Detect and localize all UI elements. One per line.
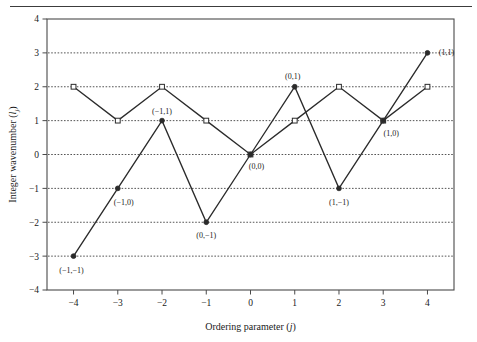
y-tick-label: 1 bbox=[34, 116, 39, 126]
data-point-filled-circle bbox=[337, 186, 342, 191]
x-tick-label: −4 bbox=[68, 298, 78, 308]
y-tick-label: −2 bbox=[29, 218, 39, 228]
y-tick-label: −3 bbox=[29, 252, 39, 262]
data-point-open-square bbox=[292, 118, 297, 123]
y-tick-label: −4 bbox=[29, 285, 39, 295]
x-tick-label: 2 bbox=[337, 298, 342, 308]
point-annotation: (1,−1) bbox=[329, 198, 349, 207]
data-point-filled-circle bbox=[160, 118, 165, 123]
x-tick-label: 4 bbox=[425, 298, 430, 308]
y-tick-label: 3 bbox=[34, 48, 39, 58]
axis-title-tail: ) bbox=[292, 321, 295, 333]
y-tick-label: 0 bbox=[34, 150, 39, 160]
point-annotation: (−1,0) bbox=[114, 198, 134, 207]
point-annotation: (−1,−1) bbox=[59, 266, 84, 275]
chart-figure: −4−3−2−101234 −4−3−2−101234 (−1,−1)(−1,0… bbox=[0, 0, 477, 342]
data-point-filled-circle bbox=[292, 84, 297, 89]
data-point-filled-circle bbox=[115, 186, 120, 191]
x-tick-label: 0 bbox=[248, 298, 253, 308]
y-tick-label: 2 bbox=[34, 82, 39, 92]
data-point-filled-circle bbox=[204, 220, 209, 225]
data-point-open-square bbox=[337, 84, 342, 89]
x-tick-label: −1 bbox=[201, 298, 211, 308]
data-point-open-square bbox=[160, 84, 165, 89]
point-annotation: (1,1) bbox=[439, 48, 455, 57]
y-tick-label: 4 bbox=[34, 14, 39, 24]
point-annotations-group: (−1,−1)(−1,0)(−1,1)(0,−1)(0,0)(0,1)(1,−1… bbox=[59, 48, 454, 275]
x-tick-label: 3 bbox=[381, 298, 386, 308]
x-axis-ticks bbox=[74, 290, 428, 295]
line-chart: −4−3−2−101234 −4−3−2−101234 (−1,−1)(−1,0… bbox=[0, 0, 477, 342]
data-point-open-square bbox=[425, 84, 430, 89]
y-tick-label: −1 bbox=[29, 184, 39, 194]
point-annotation: (0,−1) bbox=[196, 231, 216, 240]
point-annotation: (0,1) bbox=[285, 72, 301, 81]
point-annotation: (−1,1) bbox=[152, 107, 172, 116]
x-axis-title: Ordering parameter (j) bbox=[205, 321, 296, 333]
data-point-filled-circle bbox=[71, 254, 76, 259]
y-axis-tick-labels: −4−3−2−101234 bbox=[29, 14, 39, 295]
axis-title-main: Ordering parameter ( bbox=[205, 321, 290, 333]
x-tick-label: 1 bbox=[292, 298, 297, 308]
data-point-open-square bbox=[204, 118, 209, 123]
point-annotation: (1,0) bbox=[384, 129, 400, 138]
data-point-open-square bbox=[115, 118, 120, 123]
data-point-open-square bbox=[71, 84, 76, 89]
data-point-filled-circle bbox=[425, 50, 430, 55]
y-axis-ticks bbox=[43, 19, 48, 290]
x-tick-label: −3 bbox=[113, 298, 123, 308]
axis-title-main: Integer wavenumber ( bbox=[7, 114, 19, 203]
axis-title-tail: ) bbox=[7, 106, 19, 109]
figure-container: −4−3−2−101234 −4−3−2−101234 (−1,−1)(−1,0… bbox=[0, 0, 477, 342]
point-annotation: (0,0) bbox=[249, 162, 265, 171]
data-point-filled-circle bbox=[381, 118, 386, 123]
x-tick-label: −2 bbox=[157, 298, 167, 308]
data-point-filled-circle bbox=[248, 152, 253, 157]
y-axis-title: Integer wavenumber (lj) bbox=[7, 106, 21, 202]
x-axis-tick-labels: −4−3−2−101234 bbox=[68, 298, 430, 308]
